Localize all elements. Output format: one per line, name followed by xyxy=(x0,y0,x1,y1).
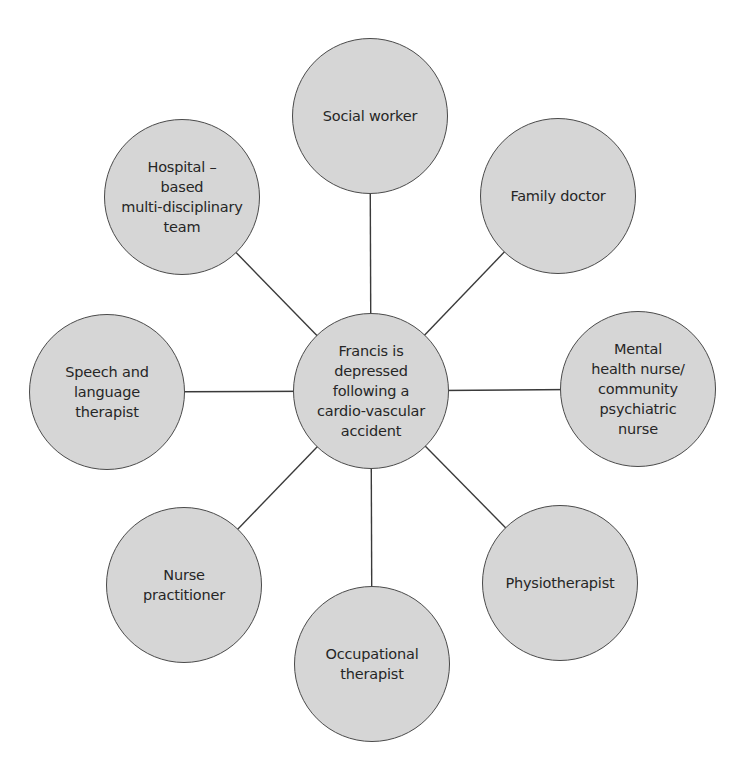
node-social-worker: Social worker xyxy=(292,38,448,194)
node-speech-language-therapist: Speech and language therapist xyxy=(29,314,185,470)
node-label: Mental health nurse/ community psychiatr… xyxy=(585,339,691,439)
center-label: Francis is depressed following a cardio-… xyxy=(311,341,431,441)
node-physiotherapist: Physiotherapist xyxy=(482,505,638,661)
node-hospital-mdt: Hospital – based multi-disciplinary team xyxy=(104,119,260,275)
node-label: Occupational therapist xyxy=(320,644,425,684)
node-occupational-therapist: Occupational therapist xyxy=(294,586,450,742)
node-family-doctor: Family doctor xyxy=(480,118,636,274)
node-label: Family doctor xyxy=(504,186,611,206)
care-network-diagram: Social worker Family doctor Mental healt… xyxy=(0,0,743,768)
node-label: Speech and language therapist xyxy=(59,362,154,422)
node-label: Hospital – based multi-disciplinary team xyxy=(115,157,248,237)
center-node: Francis is depressed following a cardio-… xyxy=(293,313,449,469)
node-mental-health-nurse: Mental health nurse/ community psychiatr… xyxy=(560,311,716,467)
node-label: Social worker xyxy=(317,106,423,126)
node-label: Nurse practitioner xyxy=(137,565,231,605)
node-label: Physiotherapist xyxy=(499,573,620,593)
node-nurse-practitioner: Nurse practitioner xyxy=(106,507,262,663)
